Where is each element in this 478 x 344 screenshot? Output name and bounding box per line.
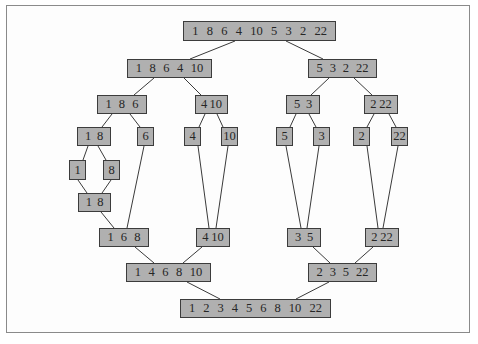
node-merge-3-b: 4 10 bbox=[196, 228, 230, 247]
value: 6 bbox=[221, 25, 227, 38]
value: 8 bbox=[97, 196, 103, 209]
value: 8 bbox=[108, 164, 114, 177]
value: 2 bbox=[203, 302, 209, 315]
node-root: 1 8 6 4 10 5 3 2 22 bbox=[183, 21, 336, 41]
value: 4 bbox=[177, 62, 183, 75]
node-merge-3-d: 2 22 bbox=[365, 228, 399, 247]
value: 22 bbox=[380, 231, 393, 244]
value: 8 bbox=[275, 302, 281, 315]
value: 3 bbox=[285, 25, 291, 38]
value: 10 bbox=[191, 62, 204, 75]
value: 1 bbox=[189, 302, 195, 315]
value: 2 bbox=[358, 130, 364, 143]
value: 5 bbox=[281, 130, 287, 143]
value: 8 bbox=[207, 25, 213, 38]
value: 6 bbox=[142, 130, 148, 143]
value: 10 bbox=[190, 266, 203, 279]
node-split-3-g: 2 bbox=[353, 127, 370, 146]
node-split-3-d: 10 bbox=[221, 127, 238, 146]
node-split-3-b: 6 bbox=[137, 127, 154, 146]
value: 1 bbox=[106, 98, 112, 111]
node-split-4-b: 8 bbox=[103, 160, 120, 180]
value: 4 bbox=[232, 302, 238, 315]
value: 5 bbox=[246, 302, 252, 315]
value: 22 bbox=[356, 62, 369, 75]
value: 1 bbox=[135, 266, 141, 279]
node-split-2-c: 5 3 bbox=[286, 95, 320, 114]
node-merge-3-a: 1 6 8 bbox=[99, 228, 149, 247]
value: 22 bbox=[393, 130, 406, 143]
value: 4 bbox=[149, 266, 155, 279]
value: 8 bbox=[119, 98, 125, 111]
value: 3 bbox=[306, 98, 312, 111]
value: 3 bbox=[318, 130, 324, 143]
node-merge-3-c: 3 5 bbox=[287, 228, 321, 247]
node-split-3-f: 3 bbox=[313, 127, 330, 146]
value: 10 bbox=[211, 231, 224, 244]
node-split-4-a: 1 bbox=[69, 160, 86, 180]
value: 8 bbox=[150, 62, 156, 75]
value: 3 bbox=[295, 231, 301, 244]
value: 1 bbox=[74, 164, 80, 177]
value: 3 bbox=[218, 302, 224, 315]
value: 3 bbox=[330, 62, 336, 75]
value: 1 bbox=[108, 231, 114, 244]
value: 22 bbox=[356, 266, 369, 279]
node-split-left-1: 1 8 6 4 10 bbox=[127, 59, 212, 78]
value: 6 bbox=[260, 302, 266, 315]
value: 4 bbox=[189, 130, 195, 143]
value: 2 bbox=[316, 266, 322, 279]
node-final-sorted: 1 2 3 4 5 6 8 10 22 bbox=[180, 299, 331, 318]
value: 5 bbox=[307, 231, 313, 244]
value: 5 bbox=[294, 98, 300, 111]
value: 22 bbox=[314, 25, 327, 38]
node-split-3-a: 1 8 bbox=[77, 127, 111, 146]
value: 1 bbox=[85, 130, 91, 143]
value: 6 bbox=[132, 98, 138, 111]
value: 1 bbox=[192, 25, 198, 38]
value: 6 bbox=[121, 231, 127, 244]
value: 3 bbox=[330, 266, 336, 279]
node-split-2-d: 2 22 bbox=[364, 95, 398, 114]
value: 4 bbox=[202, 231, 208, 244]
value: 5 bbox=[271, 25, 277, 38]
node-merge-2-right: 2 3 5 22 bbox=[308, 263, 377, 282]
value: 5 bbox=[316, 62, 322, 75]
value: 2 bbox=[371, 231, 377, 244]
value: 4 bbox=[201, 98, 207, 111]
node-split-3-c: 4 bbox=[184, 127, 201, 146]
value: 10 bbox=[250, 25, 263, 38]
value: 6 bbox=[162, 266, 168, 279]
value: 2 bbox=[343, 62, 349, 75]
value: 22 bbox=[379, 98, 392, 111]
value: 22 bbox=[309, 302, 322, 315]
value: 5 bbox=[343, 266, 349, 279]
value: 10 bbox=[223, 130, 236, 143]
node-split-3-e: 5 bbox=[276, 127, 293, 146]
node-merge-2-left: 1 4 6 8 10 bbox=[126, 263, 211, 282]
value: 8 bbox=[134, 231, 140, 244]
value: 8 bbox=[176, 266, 182, 279]
value: 10 bbox=[289, 302, 302, 315]
value: 2 bbox=[300, 25, 306, 38]
value: 1 bbox=[86, 196, 92, 209]
value: 2 bbox=[370, 98, 376, 111]
value: 10 bbox=[209, 98, 222, 111]
node-merge-4-a: 1 8 bbox=[78, 193, 111, 212]
node-split-2-a: 1 8 6 bbox=[97, 95, 147, 114]
value: 1 bbox=[136, 62, 142, 75]
node-split-2-b: 4 10 bbox=[195, 95, 228, 114]
value: 6 bbox=[163, 62, 169, 75]
node-split-3-h: 22 bbox=[391, 127, 408, 146]
value: 4 bbox=[236, 25, 242, 38]
node-split-right-1: 5 3 2 22 bbox=[308, 59, 377, 78]
value: 8 bbox=[97, 130, 103, 143]
